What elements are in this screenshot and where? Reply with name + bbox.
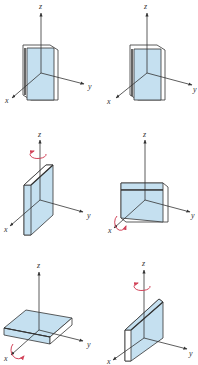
y-axis-label: y bbox=[192, 85, 197, 94]
panel-3: z y x bbox=[0, 120, 99, 240]
x-axis-label: x bbox=[3, 354, 8, 363]
y-axis-label: y bbox=[190, 211, 195, 220]
plate bbox=[24, 165, 53, 235]
z-axis-label: z bbox=[37, 130, 42, 139]
rotation-arrow-icon bbox=[11, 344, 24, 359]
rotation-arrow-icon bbox=[134, 283, 150, 290]
panel-4: z y x bbox=[99, 120, 198, 240]
z-axis-label: z bbox=[143, 2, 148, 11]
x-axis-label: x bbox=[3, 225, 8, 234]
z-axis-label: z bbox=[36, 261, 41, 270]
y-axis-label: y bbox=[188, 349, 193, 358]
y-axis-label: y bbox=[86, 340, 91, 349]
x-axis-label: x bbox=[106, 97, 111, 106]
panel-1: z y x bbox=[0, 0, 99, 120]
panel-6: z y x bbox=[99, 240, 198, 365]
plate bbox=[23, 45, 58, 100]
y-axis-label: y bbox=[86, 211, 91, 220]
x-axis-label: x bbox=[4, 96, 9, 105]
x-axis-label: x bbox=[107, 226, 112, 235]
panel-5: z y x bbox=[0, 240, 99, 365]
plate bbox=[4, 310, 72, 344]
panel-2: z y x bbox=[99, 0, 198, 120]
z-axis-label: z bbox=[142, 130, 147, 139]
x-axis-label: x bbox=[106, 357, 111, 365]
rotation-arrow-icon bbox=[30, 151, 46, 158]
plate bbox=[121, 183, 168, 222]
z-axis-label: z bbox=[38, 2, 43, 11]
plate bbox=[130, 45, 165, 100]
y-axis-label: y bbox=[87, 82, 92, 91]
z-axis-label: z bbox=[141, 259, 146, 268]
